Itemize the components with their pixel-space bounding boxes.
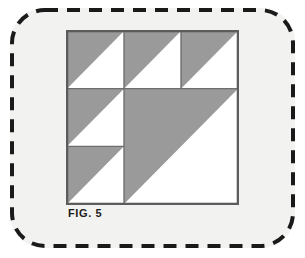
figure-caption: FIG. 5	[68, 207, 102, 219]
quilt-block-diagram	[66, 30, 239, 205]
quilt-block-svg	[67, 31, 238, 204]
figure-plate: FIG. 5	[0, 0, 305, 258]
